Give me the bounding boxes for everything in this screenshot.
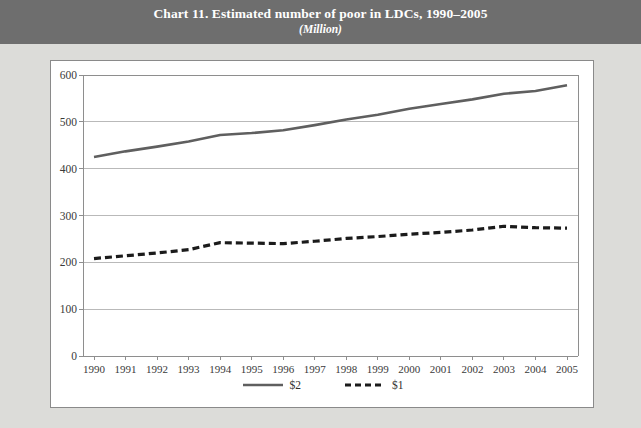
- y-axis-label: 300: [43, 210, 77, 222]
- data-series-layer: [94, 85, 567, 258]
- line-chart-svg: [51, 61, 595, 409]
- series-line-dollar1: [94, 226, 567, 258]
- chart-legend: $2$1: [51, 373, 595, 397]
- legend-label: $1: [392, 379, 404, 391]
- y-axis-label: 0: [43, 350, 77, 362]
- page-body: 0100200300400500600 19901991199219931994…: [0, 44, 641, 428]
- legend-entry-dollar1[interactable]: $1: [345, 379, 404, 391]
- solid-line-swatch: [243, 380, 283, 390]
- page-title: Chart 11. Estimated number of poor in LD…: [0, 5, 641, 22]
- gridlines: [83, 75, 578, 356]
- chart-panel: 0100200300400500600 19901991199219931994…: [50, 60, 594, 408]
- y-axis-label: 600: [43, 69, 77, 81]
- y-axis-ticks: [79, 75, 83, 356]
- y-axis-label: 100: [43, 303, 77, 315]
- y-axis-label: 500: [43, 116, 77, 128]
- dashed-line-swatch: [345, 380, 385, 390]
- page-subtitle: (Million): [0, 22, 641, 36]
- x-axis-ticks: [94, 356, 567, 360]
- legend-entry-dollar2[interactable]: $2: [243, 379, 302, 391]
- legend-label: $2: [290, 379, 302, 391]
- plot-area: 0100200300400500600 19901991199219931994…: [51, 61, 595, 409]
- series-line-dollar2: [94, 85, 567, 157]
- y-axis-label: 400: [43, 163, 77, 175]
- chart-title-band: Chart 11. Estimated number of poor in LD…: [0, 0, 641, 44]
- y-axis-label: 200: [43, 256, 77, 268]
